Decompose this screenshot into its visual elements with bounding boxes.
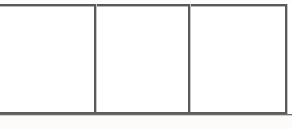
table-cell-2[interactable] [97,7,188,112]
table-right-border [285,4,287,114]
table-cell-1-text [0,7,94,15]
table-column-divider-2 [188,4,190,114]
scanned-page [0,0,292,129]
table-column-divider-1 [94,4,96,114]
table-cell-3[interactable] [191,7,285,112]
page-baseline-rule [0,114,292,115]
table-cell-1[interactable] [0,7,94,112]
table-cell-2-text [97,7,188,15]
table-cell-3-text [191,7,285,15]
table-top-rule [0,4,286,6]
table-grid [0,4,286,114]
